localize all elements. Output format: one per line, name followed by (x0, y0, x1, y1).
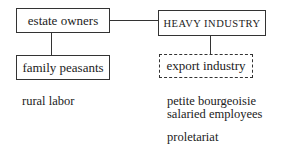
node-label: HEAVY INDUSTRY (163, 18, 260, 29)
label-petite-bourgeoisie: petite bourgeoisie (167, 94, 256, 108)
node-label: family peasants (22, 60, 103, 76)
node-estate-owners: estate owners (16, 8, 110, 33)
node-export-industry: export industry (159, 54, 253, 78)
label-proletariat: proletariat (167, 130, 218, 144)
label-salaried-employees: salaried employees (167, 107, 262, 121)
connector-heavy-export (210, 35, 211, 55)
node-label: export industry (166, 58, 245, 74)
node-label: estate owners (28, 13, 98, 29)
label-rural-labor: rural labor (22, 94, 74, 108)
connector-estate-heavy (109, 20, 158, 21)
node-family-peasants: family peasants (16, 55, 110, 80)
connector-estate-family (51, 32, 52, 56)
node-heavy-industry: HEAVY INDUSTRY (158, 10, 266, 36)
